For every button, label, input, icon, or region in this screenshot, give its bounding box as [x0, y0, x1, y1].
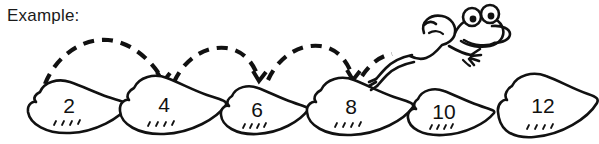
lily-pad-label: 6 [251, 98, 263, 121]
arrowhead-icon-on-pad-6 [253, 71, 266, 81]
lily-pad-2: 2 [28, 80, 128, 133]
lily-pad-4: 4 [120, 76, 226, 134]
lily-pad-6: 6 [221, 86, 308, 134]
worksheet-canvas: Example: 2 [0, 0, 599, 144]
lily-pad-10: 10 [408, 89, 494, 135]
jump-arc-4-to-6 [174, 48, 259, 82]
cartoon-frog [369, 5, 510, 90]
frog-hind-leg-lower [377, 62, 414, 86]
frog-front-foot [469, 49, 481, 65]
lily-pad-12: 12 [498, 74, 598, 137]
lily-pad-label: 2 [63, 94, 75, 117]
frog-front-leg [449, 46, 471, 55]
frog-back-bump-detail [429, 31, 443, 34]
lily-pad-label: 12 [531, 94, 554, 117]
lily-pad-shape [120, 76, 226, 134]
skip-counting-illustration: 2 4 6 [0, 0, 599, 144]
lily-pad-shape [28, 80, 128, 133]
lily-pad-label: 10 [432, 100, 455, 123]
frog-eye-right [481, 5, 499, 23]
lily-pad-label: 8 [345, 95, 357, 118]
frog-back-bumps [424, 22, 436, 25]
lily-pad-shape [307, 78, 413, 135]
frog-eye-left [463, 8, 481, 26]
lily-pad-label: 4 [158, 93, 170, 116]
lily-pad-8: 8 [307, 78, 413, 135]
jump-arc-6-to-8 [268, 46, 353, 80]
